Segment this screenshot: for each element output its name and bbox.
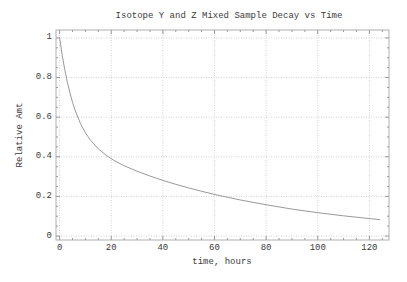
x-tick-label: 100 bbox=[310, 244, 326, 253]
x-tick-label: 20 bbox=[106, 244, 117, 253]
x-tick-label: 60 bbox=[209, 244, 220, 253]
decay-chart-figure: Isotope Y and Z Mixed Sample Decay vs Ti… bbox=[0, 0, 407, 282]
y-tick-label: 1 bbox=[22, 33, 52, 42]
x-tick-label: 40 bbox=[157, 244, 168, 253]
y-tick-label: 0.8 bbox=[22, 73, 52, 82]
plot-area bbox=[0, 0, 407, 282]
x-tick-label: 0 bbox=[57, 244, 62, 253]
x-tick-label: 80 bbox=[261, 244, 272, 253]
x-tick-label: 120 bbox=[361, 244, 377, 253]
y-tick-label: 0.6 bbox=[22, 113, 52, 122]
decay-curve bbox=[60, 38, 380, 220]
plot-frame bbox=[56, 30, 389, 240]
y-tick-label: 0.4 bbox=[22, 152, 52, 161]
y-tick-label: 0.2 bbox=[22, 192, 52, 201]
y-tick-label: 0 bbox=[22, 232, 52, 241]
